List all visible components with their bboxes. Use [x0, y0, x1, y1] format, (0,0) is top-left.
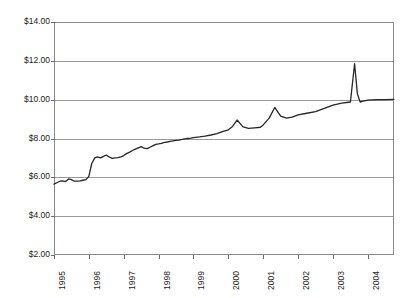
y-tick-mark — [51, 216, 55, 217]
x-tick-label: 2002 — [302, 271, 311, 290]
gridline-y — [55, 100, 393, 101]
x-tick-label: 2004 — [372, 271, 381, 290]
y-tick-mark — [51, 100, 55, 101]
gridline-y — [55, 216, 393, 217]
x-tick-label: 2001 — [267, 271, 276, 290]
y-axis: $14.00$12.00$10.00$8.00$6.00$4.00$2.00 — [0, 0, 50, 298]
x-tick-label: 2000 — [232, 271, 241, 290]
gridline-y — [55, 177, 393, 178]
y-tick-mark — [51, 139, 55, 140]
y-tick-mark — [51, 177, 55, 178]
y-tick-label: $2.00 — [29, 250, 50, 258]
x-tick-label: 1995 — [58, 271, 67, 290]
x-tick-label: 1998 — [163, 271, 172, 290]
x-axis: 1995199619971998199920002001200220032004 — [0, 258, 411, 298]
gridline-y — [55, 139, 393, 140]
y-tick-label: $14.00 — [24, 17, 50, 25]
y-tick-mark — [51, 22, 55, 23]
y-tick-label: $8.00 — [29, 134, 50, 142]
x-tick-label: 2003 — [337, 271, 346, 290]
y-tick-label: $6.00 — [29, 172, 50, 180]
gridline-y — [55, 61, 393, 62]
y-tick-label: $10.00 — [24, 95, 50, 103]
x-tick-label: 1999 — [197, 271, 206, 290]
x-tick-label: 1997 — [128, 271, 137, 290]
y-tick-mark — [51, 61, 55, 62]
price-line-chart: $14.00$12.00$10.00$8.00$6.00$4.00$2.00 1… — [0, 0, 411, 298]
y-tick-label: $4.00 — [29, 211, 50, 219]
x-tick-label: 1996 — [93, 271, 102, 290]
plot-area — [54, 22, 394, 255]
y-tick-label: $12.00 — [24, 56, 50, 64]
